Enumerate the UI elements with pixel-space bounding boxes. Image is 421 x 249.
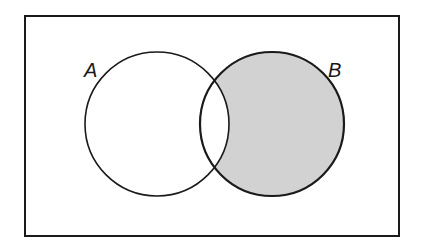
venn-diagram: A B	[0, 0, 421, 249]
set-b-label: B	[328, 59, 341, 81]
set-a-label: A	[83, 59, 97, 81]
